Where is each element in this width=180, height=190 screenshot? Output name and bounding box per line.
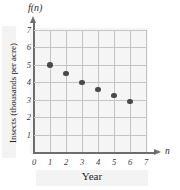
x-tick-label: 0 (29, 158, 39, 167)
x-tick-label: 2 (61, 158, 71, 167)
x-tick-label: 1 (45, 158, 55, 167)
gridline-vertical (146, 30, 147, 152)
plot-area (34, 30, 146, 152)
x-tick-label: 3 (77, 158, 87, 167)
y-axis-title: Insects (thousands per acre) (8, 27, 18, 159)
y-tick-label: 1 (21, 131, 31, 140)
x-tick-label: 5 (109, 158, 119, 167)
y-tick-label: 3 (21, 96, 31, 105)
data-point (95, 87, 100, 92)
y-tick-label: 7 (21, 26, 31, 35)
gridline-vertical (50, 30, 51, 152)
x-axis-symbol-label: n (165, 146, 170, 156)
data-point (47, 62, 52, 67)
x-tick-label: 7 (141, 158, 151, 167)
data-point (79, 80, 84, 85)
gridline-vertical (130, 30, 131, 152)
y-tick-label: 4 (21, 78, 31, 87)
x-axis-title: Year (36, 170, 148, 182)
x-axis-arrow-icon (154, 149, 161, 155)
y-tick-label: 2 (21, 113, 31, 122)
y-axis-symbol-label: f(n) (28, 2, 42, 13)
y-tick-label: 5 (21, 61, 31, 70)
gridline-vertical (114, 30, 115, 152)
insect-population-scatter-chart: f(n) n 1234567 01234567 Insects (thousan… (0, 0, 180, 190)
y-tick-label: 6 (21, 43, 31, 52)
x-axis-line (33, 152, 155, 154)
data-point (111, 93, 116, 98)
data-point (127, 99, 132, 104)
gridline-vertical (66, 30, 67, 152)
data-point (63, 71, 68, 76)
gridline-vertical (82, 30, 83, 152)
x-tick-label: 4 (93, 158, 103, 167)
x-tick-label: 6 (125, 158, 135, 167)
